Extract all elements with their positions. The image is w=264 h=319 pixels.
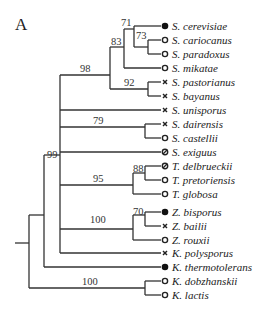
- taxon-tip: T. delbrueckii: [162, 160, 232, 172]
- taxon-tip: Z. bailii: [163, 220, 207, 232]
- taxon-tip: S. cerevisiae: [162, 20, 228, 32]
- bootstrap-92: 92: [124, 77, 135, 88]
- bootstrap-95: 95: [93, 173, 104, 184]
- bootstrap-73: 73: [136, 30, 147, 41]
- open-circle-icon: [162, 177, 167, 182]
- open-circle-icon: [162, 135, 167, 140]
- taxon-tip: S. exiguus: [162, 146, 216, 158]
- bootstrap-100-zygo: 100: [90, 214, 106, 225]
- open-circle-icon: [162, 37, 167, 42]
- taxon-label: S. mikatae: [172, 62, 218, 74]
- bootstrap-71: 71: [121, 17, 132, 28]
- taxon-label: Z. bisporus: [172, 206, 222, 218]
- taxon-label: S. pastorianus: [172, 76, 235, 88]
- open-circle-icon: [162, 65, 167, 70]
- cross-icon: [163, 251, 167, 255]
- taxon-tip: K. dobzhanskii: [162, 275, 237, 287]
- taxon-label: S. paradoxus: [172, 48, 229, 60]
- taxon-label: T. pretoriensis: [172, 174, 235, 186]
- taxon-label: Z. bailii: [172, 220, 207, 232]
- open-circle-icon: [162, 237, 167, 242]
- taxon-label: K. polysporus: [171, 247, 233, 259]
- bootstrap-98: 98: [80, 63, 91, 74]
- taxon-tip: S. paradoxus: [162, 48, 229, 60]
- bootstrap-100-kluyv: 100: [82, 276, 98, 287]
- taxon-label: K. lactis: [171, 289, 209, 301]
- filled-circle-icon: [162, 264, 169, 271]
- taxon-label: S. cerevisiae: [172, 20, 227, 32]
- taxon-tip: Z. bisporus: [162, 206, 222, 218]
- taxon-tip: K. thermotolerans: [162, 261, 252, 273]
- taxa-list: S. cerevisiaeS. cariocanusS. paradoxusS.…: [162, 20, 252, 301]
- filled-circle-icon: [162, 209, 169, 216]
- taxon-label: Z. rouxii: [172, 234, 210, 246]
- open-circle-icon: [162, 292, 167, 297]
- bootstrap-83: 83: [111, 36, 122, 47]
- phylogenetic-tree: 71 73 83 98 92 79 99 88 95 70 100 100 S.…: [0, 0, 264, 319]
- slashed-circle-icon: [162, 163, 167, 168]
- taxon-label: T. delbrueckii: [172, 160, 232, 172]
- bootstrap-79: 79: [93, 115, 104, 126]
- taxon-label: K. thermotolerans: [171, 261, 252, 273]
- taxon-tip: S. dairensis: [163, 118, 223, 130]
- cross-icon: [163, 80, 167, 84]
- taxon-tip: S. castellii: [162, 132, 217, 144]
- taxon-tip: K. lactis: [162, 289, 208, 301]
- bootstrap-70: 70: [133, 206, 144, 217]
- taxon-tip: S. bayanus: [163, 90, 220, 102]
- taxon-label: S. bayanus: [172, 90, 220, 102]
- taxon-label: S. unisporus: [172, 104, 226, 116]
- taxon-tip: S. mikatae: [162, 62, 218, 74]
- cross-icon: [163, 224, 167, 228]
- taxon-tip: K. polysporus: [163, 247, 233, 259]
- taxon-label: K. dobzhanskii: [171, 275, 237, 287]
- open-circle-icon: [162, 191, 167, 196]
- taxon-label: S. castellii: [172, 132, 218, 144]
- taxon-tip: S. cariocanus: [162, 34, 231, 46]
- taxon-label: S. cariocanus: [172, 34, 232, 46]
- filled-circle-icon: [162, 23, 169, 30]
- taxon-tip: T. pretoriensis: [162, 174, 235, 186]
- bootstrap-88: 88: [133, 163, 144, 174]
- cross-icon: [163, 108, 167, 112]
- taxon-tip: Z. rouxii: [162, 234, 209, 246]
- taxon-tip: S. pastorianus: [163, 76, 235, 88]
- cross-icon: [163, 94, 167, 98]
- open-circle-icon: [162, 278, 167, 283]
- taxon-tip: S. unisporus: [163, 104, 226, 116]
- open-circle-icon: [162, 51, 167, 56]
- bootstrap-99: 99: [47, 149, 58, 160]
- taxon-label: S. dairensis: [172, 118, 223, 130]
- cross-icon: [163, 122, 167, 126]
- taxon-label: T. globosa: [172, 188, 218, 200]
- taxon-tip: T. globosa: [162, 188, 218, 200]
- slashed-circle-icon: [162, 149, 167, 154]
- taxon-label: S. exiguus: [172, 146, 217, 158]
